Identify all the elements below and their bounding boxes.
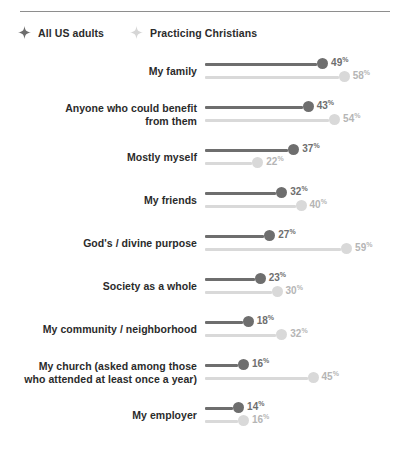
percent-sign: % [328, 99, 334, 106]
header-divider [20, 11, 390, 12]
lollipop-dot[interactable] [238, 359, 249, 370]
category-label-line: who attended at least once a year) [0, 373, 197, 386]
series-1-marker[interactable]: 59% [205, 243, 387, 255]
value-label: 16% [252, 358, 269, 370]
chart-row: My community / neighborhood18%32% [0, 308, 405, 351]
category-label: God's / divine purpose [0, 237, 205, 250]
value-label: 49% [331, 57, 348, 69]
row-bars: 16%45% [205, 351, 405, 394]
series-0-marker[interactable]: 27% [205, 230, 310, 242]
lollipop-stem [205, 119, 329, 122]
chart-plot-area: My family49%58%Anyone who could benefitf… [0, 50, 405, 437]
percent-sign: % [289, 228, 295, 235]
lollipop-stem [205, 407, 233, 410]
legend-item-label: Practicing Christians [150, 27, 257, 39]
lollipop-dot[interactable] [339, 71, 350, 82]
category-label: My family [0, 65, 205, 78]
lollipop-stem [205, 321, 243, 324]
percent-sign: % [301, 185, 307, 192]
value-label: 58% [353, 70, 370, 82]
lollipop-stem [205, 162, 252, 165]
category-label: My friends [0, 194, 205, 207]
lollipop-dot[interactable] [233, 402, 244, 413]
value-number: 27 [278, 229, 289, 240]
value-label: 23% [269, 272, 286, 284]
lollipop-dot[interactable] [288, 144, 299, 155]
row-bars: 49%58% [205, 50, 405, 93]
lollipop-dot[interactable] [238, 415, 249, 426]
category-label-line: My community / neighborhood [0, 323, 197, 336]
percent-sign: % [263, 357, 269, 364]
lollipop-dot[interactable] [264, 230, 275, 241]
category-label: Mostly myself [0, 151, 205, 164]
value-label: 22% [266, 156, 283, 168]
lollipop-dot[interactable] [252, 157, 263, 168]
four-point-star-icon [18, 26, 31, 39]
lollipop-dot[interactable] [308, 372, 319, 383]
percent-sign: % [354, 112, 360, 119]
lollipop-dot[interactable] [255, 273, 266, 284]
percent-sign: % [342, 56, 348, 63]
value-number: 43 [317, 100, 328, 111]
row-bars: 27%59% [205, 222, 405, 265]
percent-sign: % [366, 241, 372, 248]
category-label: My community / neighborhood [0, 323, 205, 336]
lollipop-stem [205, 334, 276, 337]
row-bars: 14%16% [205, 394, 405, 437]
row-bars: 18%32% [205, 308, 405, 351]
value-number: 40 [310, 199, 321, 210]
series-1-marker[interactable]: 45% [205, 372, 353, 384]
lollipop-dot[interactable] [329, 114, 340, 125]
lollipop-stem [205, 420, 238, 423]
series-0-marker[interactable]: 18% [205, 316, 288, 328]
series-1-marker[interactable]: 54% [205, 114, 375, 126]
lollipop-dot[interactable] [276, 329, 287, 340]
lollipop-dot[interactable] [317, 58, 328, 69]
legend-item-0[interactable]: All US adults [18, 26, 104, 39]
lollipop-dot[interactable] [341, 243, 352, 254]
percent-sign: % [333, 370, 339, 377]
series-1-marker[interactable]: 16% [205, 415, 283, 427]
chart-row: Anyone who could benefitfrom them43%54% [0, 93, 405, 136]
series-0-marker[interactable]: 43% [205, 101, 348, 113]
series-0-marker[interactable]: 32% [205, 187, 322, 199]
chart-row: Mostly myself37%22% [0, 136, 405, 179]
row-bars: 32%40% [205, 179, 405, 222]
lollipop-dot[interactable] [296, 200, 307, 211]
value-label: 30% [286, 285, 303, 297]
series-0-marker[interactable]: 37% [205, 144, 334, 156]
series-1-marker[interactable]: 58% [205, 71, 384, 83]
series-1-marker[interactable]: 40% [205, 200, 341, 212]
category-label: Anyone who could benefitfrom them [0, 102, 205, 128]
category-label-line: from them [0, 115, 197, 128]
legend-item-1[interactable]: Practicing Christians [130, 26, 257, 39]
series-1-marker[interactable]: 30% [205, 286, 317, 298]
category-label-line: Society as a whole [0, 280, 197, 293]
series-0-marker[interactable]: 49% [205, 58, 363, 70]
lollipop-dot[interactable] [272, 286, 283, 297]
category-label-line: My church (asked among those [0, 360, 197, 373]
lollipop-stem [205, 291, 272, 294]
lollipop-dot[interactable] [303, 101, 314, 112]
lollipop-stem [205, 192, 276, 195]
percent-sign: % [277, 155, 283, 162]
lollipop-dot[interactable] [276, 187, 287, 198]
lollipop-dot[interactable] [243, 316, 254, 327]
value-label: 27% [278, 229, 295, 241]
percent-sign: % [268, 314, 274, 321]
chart-row: God's / divine purpose27%59% [0, 222, 405, 265]
lollipop-stem [205, 235, 264, 238]
value-label: 45% [322, 371, 339, 383]
series-0-marker[interactable]: 23% [205, 273, 300, 285]
series-1-marker[interactable]: 22% [205, 157, 298, 169]
lollipop-stem [205, 364, 238, 367]
percent-sign: % [321, 198, 327, 205]
lollipop-chart: All US adultsPracticing Christians My fa… [0, 0, 405, 457]
value-number: 16 [252, 358, 263, 369]
value-number: 32 [290, 328, 301, 339]
category-label: My employer [0, 409, 205, 422]
series-1-marker[interactable]: 32% [205, 329, 322, 341]
series-0-marker[interactable]: 16% [205, 359, 283, 371]
value-label: 16% [252, 414, 269, 426]
value-label: 37% [302, 143, 319, 155]
